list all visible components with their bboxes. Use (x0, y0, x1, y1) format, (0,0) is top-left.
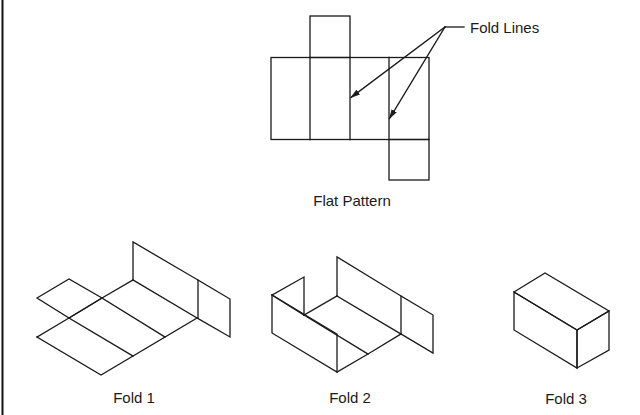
fold-lines-callout: Fold Lines (351, 19, 539, 119)
fold-3-drawing (514, 273, 609, 368)
fold-1-drawing (37, 242, 230, 375)
bottom-tab (389, 140, 429, 181)
top-tab (310, 16, 350, 58)
fold-1-label: Fold 1 (113, 389, 155, 406)
fold-diagram: Fold Lines Flat Pattern Fold 1 Fold 2 Fo… (0, 0, 640, 415)
fold-2-label: Fold 2 (329, 389, 371, 406)
fold-3-label: Fold 3 (545, 390, 587, 407)
callout-arrow-2 (390, 27, 446, 119)
flat-pattern-label: Flat Pattern (313, 192, 391, 209)
callout-arrow-1 (351, 27, 445, 98)
fold-2-drawing (272, 257, 433, 372)
callout-label: Fold Lines (470, 19, 539, 36)
flat-pattern (271, 16, 429, 180)
